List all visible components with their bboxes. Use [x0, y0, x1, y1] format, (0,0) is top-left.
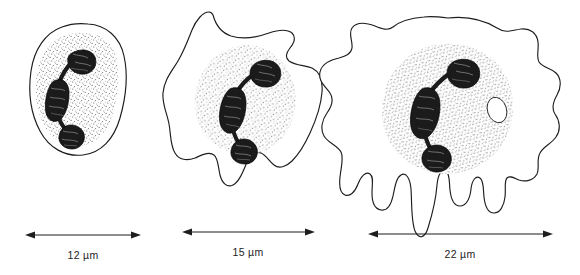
cell-1 [30, 24, 126, 156]
figure-root: 12 µm 15 µm 22 µm [0, 0, 580, 275]
scale-label-1: 12 µm [68, 249, 99, 261]
scale-bar-3: 22 µm [368, 231, 553, 260]
scale-bar-2: 15 µm [182, 229, 315, 258]
scale-label-3: 22 µm [445, 248, 476, 260]
cell-2 [163, 12, 322, 186]
scale-label-2: 15 µm [233, 246, 264, 258]
cell-series-figure: 12 µm 15 µm 22 µm [0, 0, 580, 275]
scale-bar-1: 12 µm [25, 232, 141, 261]
cell-3 [320, 17, 561, 237]
